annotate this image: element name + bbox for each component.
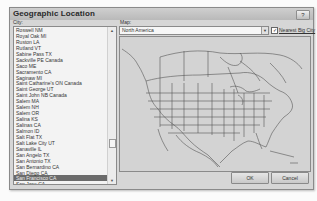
nearest-big-city-checkbox[interactable]: ✓ xyxy=(271,27,278,34)
title-bar[interactable]: Geographic Location ? xyxy=(10,8,313,20)
map-dropdown[interactable]: North America ▼ xyxy=(119,26,269,35)
north-america-map-icon xyxy=(120,37,310,171)
scroll-up-arrow-icon[interactable]: ▲ xyxy=(108,27,116,34)
city-label: City: xyxy=(13,19,23,25)
chevron-down-icon[interactable]: ▼ xyxy=(261,27,268,34)
scroll-thumb[interactable] xyxy=(109,139,116,148)
map-view[interactable] xyxy=(119,36,311,172)
cancel-button[interactable]: Cancel xyxy=(271,172,309,184)
map-dropdown-value: North America xyxy=(122,27,154,34)
city-list-scrollbar[interactable]: ▲ ▼ xyxy=(107,27,116,184)
ok-button[interactable]: OK xyxy=(231,172,269,184)
city-list-items: Roswell NMRoyal Oak MIRuston LARutland V… xyxy=(14,27,108,185)
city-list[interactable]: Roswell NMRoyal Oak MIRuston LARutland V… xyxy=(13,26,117,185)
help-button[interactable]: ? xyxy=(296,10,310,20)
dialog-title: Geographic Location xyxy=(13,9,95,18)
nearest-big-city-label[interactable]: Nearest Big City xyxy=(279,27,315,33)
scroll-down-arrow-icon[interactable]: ▼ xyxy=(108,177,116,184)
map-label: Map: xyxy=(120,19,131,25)
city-list-item[interactable]: San Jose CA xyxy=(14,181,108,185)
